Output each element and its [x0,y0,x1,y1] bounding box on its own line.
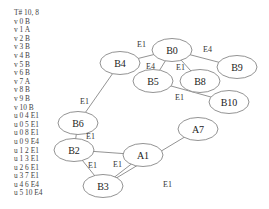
graph-diagram: B0B9B4B5B8B10B6B2A1A7B3 E1E4E4E1E1E1E1E1… [0,0,269,209]
node-B10: B10 [209,91,249,114]
node-B4: B4 [100,52,140,75]
node-B5: B5 [133,70,173,93]
node-label: B6 [72,118,84,129]
edge-label: E1 [137,40,146,49]
node-B3: B3 [83,175,123,198]
node-A7: A7 [178,118,218,141]
node-B9: B9 [217,56,257,79]
edge-label: E1 [113,160,122,169]
edge-label: E4 [203,45,212,54]
edge-label: E1 [80,97,89,106]
node-label: B8 [194,76,206,87]
node-label: B5 [147,76,159,87]
node-label: B2 [68,145,80,156]
edge-label: E1 [86,132,95,141]
node-B2: B2 [54,139,94,162]
node-label: B0 [166,45,178,56]
node-label: B3 [97,181,109,192]
edge-label: E1 [176,63,185,72]
node-label: A1 [137,150,149,161]
node-B8: B8 [180,70,220,93]
edge-label: E4 [146,62,155,71]
edge-label: E1 [163,180,172,189]
node-A1: A1 [123,144,163,167]
node-B0: B0 [152,39,192,62]
node-label: B10 [221,97,238,108]
node-label: A7 [192,124,204,135]
node-label: B9 [231,62,243,73]
node-label: B4 [114,58,126,69]
edge-label: E1 [88,161,97,170]
edge-label: E1 [175,93,184,102]
